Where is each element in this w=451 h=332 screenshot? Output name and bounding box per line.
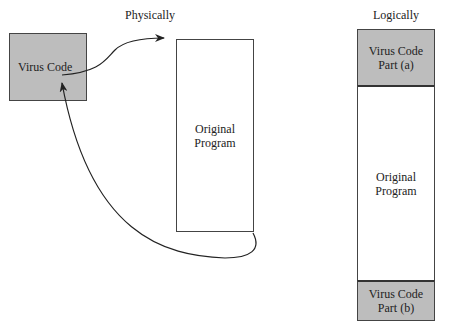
part-a-line1: Virus Code xyxy=(369,44,423,58)
virus-code-part-b: Virus Code Part (b) xyxy=(357,280,435,321)
logical-original-program: Original Program xyxy=(357,86,435,281)
part-a-line2: Part (a) xyxy=(378,58,414,72)
logical-program-line1: Original xyxy=(376,170,416,184)
part-b-line2: Part (b) xyxy=(378,301,414,315)
logically-heading: Logically xyxy=(357,8,435,22)
part-b-line1: Virus Code xyxy=(369,287,423,301)
logical-program-line2: Program xyxy=(375,184,416,198)
virus-code-part-a: Virus Code Part (a) xyxy=(357,29,435,87)
return-arrow xyxy=(62,83,256,258)
jump-arrow xyxy=(62,38,164,75)
